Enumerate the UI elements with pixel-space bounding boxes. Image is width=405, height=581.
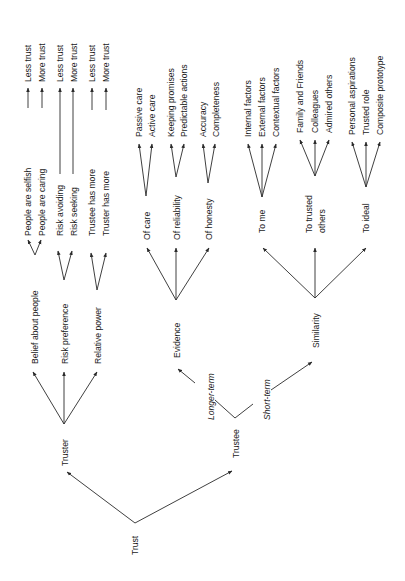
node-relative-power: Relative power: [93, 307, 103, 364]
node-to-trusted-others-line2: others: [317, 209, 327, 233]
node-internal-factors: Internal factors: [243, 80, 253, 137]
node-of-honesty: Of honesty: [204, 198, 214, 240]
node-active-care: Active care: [147, 94, 157, 137]
node-evidence: Evidence: [172, 322, 182, 358]
trust-tree-diagram: Trust Truster Trustee Belief about peopl…: [0, 0, 405, 581]
node-accuracy: Accuracy: [198, 101, 208, 137]
node-less-trust-3: Less trust: [87, 44, 97, 82]
node-trust: Trust: [130, 535, 140, 555]
node-passive-care: Passive care: [134, 88, 144, 137]
node-less-trust-1: Less trust: [23, 44, 33, 82]
node-predictable-actions: Predictable actions: [179, 64, 189, 137]
node-similarity: Similarity: [311, 312, 321, 348]
edge-label-longer-term: Longer-term: [206, 373, 216, 420]
node-composite-prototype: Composite prototype: [375, 55, 385, 135]
node-truster: Truster: [60, 439, 70, 466]
node-trusted-role: Trusted role: [361, 89, 371, 135]
node-external-factors: External factors: [257, 77, 267, 137]
node-more-trust-1: More trust: [37, 43, 47, 82]
node-less-trust-2: Less trust: [55, 44, 65, 82]
node-to-trusted-others-line1: To trusted: [304, 195, 314, 233]
node-admired-others: Admired others: [324, 75, 334, 133]
node-of-reliability: Of reliability: [172, 194, 182, 240]
node-of-care: Of care: [142, 212, 152, 240]
node-trustee: Trustee: [231, 429, 241, 458]
node-risk-avoiding: Risk avoiding: [55, 185, 65, 236]
node-personal-aspirations: Personal aspirations: [347, 57, 357, 135]
node-risk-seeking: Risk seeking: [69, 187, 79, 236]
node-people-selfish: People are selfish: [23, 167, 33, 236]
node-completeness: Completeness: [211, 82, 221, 137]
node-more-trust-2: More trust: [69, 43, 79, 82]
node-to-ideal: To ideal: [361, 203, 371, 233]
node-more-trust-3: More trust: [101, 43, 111, 82]
edge-label-short-term: Short-term: [262, 379, 272, 420]
node-truster-has-more: Truster has more: [101, 171, 111, 236]
node-people-caring: People are caring: [37, 168, 47, 236]
labels: Trust Truster Trustee Belief about peopl…: [23, 43, 385, 555]
node-colleagues: Colleagues: [310, 90, 320, 133]
edges: [28, 88, 380, 523]
node-trustee-has-more: Trustee has more: [87, 169, 97, 236]
node-risk-preference: Risk preference: [60, 304, 70, 364]
node-to-me: To me: [257, 209, 267, 233]
node-belief-about-people: Belief about people: [30, 290, 40, 364]
node-keeping-promises: Keeping promises: [166, 68, 176, 137]
node-contextual-factors: Contextual factors: [271, 68, 281, 137]
node-family-friends: Family and Friends: [295, 60, 305, 133]
